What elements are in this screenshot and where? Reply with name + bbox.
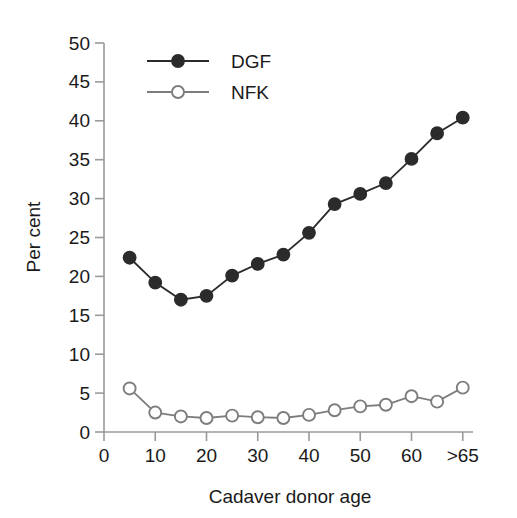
data-point [124, 382, 136, 394]
data-point [149, 276, 161, 288]
data-point [303, 227, 315, 239]
data-point [329, 404, 341, 416]
data-point [175, 410, 187, 422]
x-tick-label: 30 [247, 445, 268, 466]
y-tick-label: 20 [69, 266, 90, 287]
y-tick-label: 30 [69, 188, 90, 209]
data-point [175, 294, 187, 306]
y-tick-label: 10 [69, 344, 90, 365]
data-point [354, 188, 366, 200]
data-point [201, 412, 213, 424]
data-point [226, 269, 238, 281]
x-tick-label: 60 [401, 445, 422, 466]
data-point [431, 396, 443, 408]
data-point [354, 400, 366, 412]
y-tick-label: 45 [69, 71, 90, 92]
legend-label-nfk: NFK [231, 82, 269, 103]
data-point [380, 399, 392, 411]
data-point [405, 153, 417, 165]
y-tick-label: 0 [79, 422, 90, 443]
y-tick-label: 50 [69, 33, 90, 54]
data-point [457, 111, 469, 123]
data-point [123, 252, 135, 264]
x-axis-title: Cadaver donor age [209, 486, 372, 507]
data-point [303, 409, 315, 421]
data-point [431, 127, 443, 139]
y-tick-label: 15 [69, 305, 90, 326]
x-tick-label: >65 [447, 445, 479, 466]
x-tick-label: 50 [350, 445, 371, 466]
legend-marker-filled-circle-icon [172, 55, 184, 67]
legend-label-dgf: DGF [231, 51, 271, 72]
data-point [277, 412, 289, 424]
data-point [226, 410, 238, 422]
chart-container: 05101520253035404550 0102030405060>65 Pe… [0, 0, 517, 518]
y-tick-label: 5 [79, 383, 90, 404]
data-point [457, 382, 469, 394]
y-tick-label: 40 [69, 110, 90, 131]
y-tick-label: 35 [69, 149, 90, 170]
x-tick-label: 20 [196, 445, 217, 466]
y-tick-label: 25 [69, 227, 90, 248]
x-tick-label: 10 [145, 445, 166, 466]
line-chart: 05101520253035404550 0102030405060>65 Pe… [0, 0, 517, 518]
data-point [149, 407, 161, 419]
x-tick-label: 40 [298, 445, 319, 466]
y-axis-title: Per cent [23, 201, 44, 272]
data-point [252, 258, 264, 270]
data-point [406, 390, 418, 402]
data-point [252, 411, 264, 423]
data-point [277, 248, 289, 260]
data-point [328, 198, 340, 210]
x-tick-label: 0 [99, 445, 110, 466]
data-point [380, 177, 392, 189]
legend-marker-open-circle-icon [172, 86, 184, 98]
data-point [200, 290, 212, 302]
